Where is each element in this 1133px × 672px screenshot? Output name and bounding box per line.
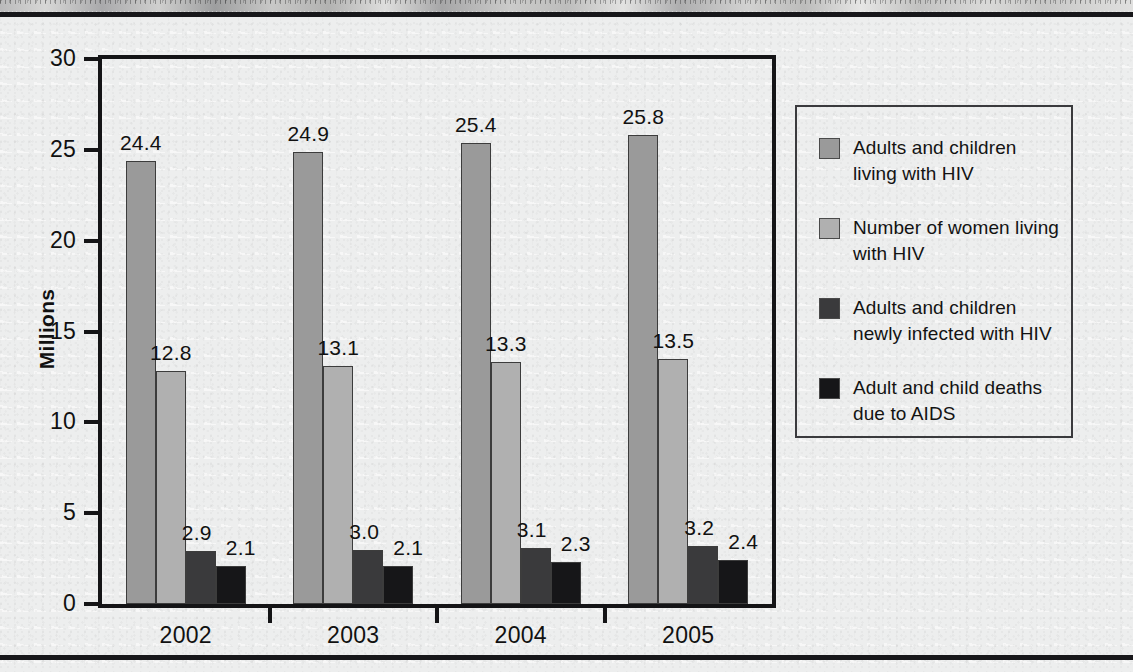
bar-2004-series2 [491, 362, 521, 604]
bar-value-label: 2.1 [215, 536, 267, 560]
legend-item-1: Adults and children living with HIV [819, 135, 1063, 187]
bar-value-label: 2.3 [550, 532, 602, 556]
x-axis-label-2002: 2002 [141, 622, 231, 649]
bar-value-label: 12.8 [145, 341, 197, 365]
legend-label: Number of women living with HIV [853, 215, 1063, 267]
y-tick-mark [84, 511, 98, 515]
y-tick-mark [84, 602, 98, 606]
bar-value-label: 13.1 [312, 336, 364, 360]
bar-2004-series1 [461, 143, 491, 604]
bar-value-label: 2.4 [717, 530, 769, 554]
bar-2002-series3 [186, 551, 216, 604]
y-tick-mark [84, 239, 98, 243]
bar-2002-series2 [156, 371, 186, 604]
legend-label: Adults and children living with HIV [853, 135, 1063, 187]
x-tick-mark [268, 608, 272, 623]
bars-layer: 24.412.82.92.124.913.13.02.125.413.33.12… [102, 59, 772, 604]
y-tick-label: 10 [50, 408, 76, 435]
x-axis-label-2003: 2003 [308, 622, 398, 649]
bar-value-label: 25.8 [617, 105, 669, 129]
bar-2005-series1 [628, 135, 658, 604]
legend-item-2: Number of women living with HIV [819, 215, 1063, 267]
bar-2003-series4 [383, 566, 413, 604]
legend-item-4: Adult and child deaths due to AIDS [819, 375, 1063, 427]
bar-value-label: 24.9 [282, 122, 334, 146]
y-tick-label: 25 [50, 136, 76, 163]
legend-swatch-icon [819, 218, 840, 239]
bar-2003-series1 [293, 152, 323, 604]
legend-swatch-icon [819, 378, 840, 399]
bar-value-label: 25.4 [450, 113, 502, 137]
y-tick-mark [84, 57, 98, 61]
y-tick-label: 0 [63, 590, 76, 617]
bar-value-label: 2.1 [382, 536, 434, 560]
legend-label: Adult and child deaths due to AIDS [853, 375, 1063, 427]
bar-group-2003: 24.913.13.02.1 [270, 59, 438, 604]
y-tick-label: 30 [50, 45, 76, 72]
chart-legend: Adults and children living with HIVNumbe… [795, 105, 1073, 438]
bar-2005-series2 [658, 359, 688, 604]
y-tick-label: 5 [63, 499, 76, 526]
legend-item-3: Adults and children newly infected with … [819, 295, 1063, 347]
x-axis-label-2005: 2005 [643, 622, 733, 649]
bar-group-2002: 24.412.82.92.1 [102, 59, 270, 604]
bar-group-2005: 25.813.53.22.4 [605, 59, 773, 604]
y-tick-label: 15 [50, 318, 76, 345]
x-tick-mark [435, 608, 439, 623]
bar-group-2004: 25.413.33.12.3 [437, 59, 605, 604]
y-tick-mark [84, 330, 98, 334]
x-axis-labels: 2002200320042005 [98, 622, 776, 656]
y-tick-label: 20 [50, 227, 76, 254]
legend-swatch-icon [819, 138, 840, 159]
legend-label: Adults and children newly infected with … [853, 295, 1063, 347]
bar-value-label: 13.5 [647, 329, 699, 353]
bar-value-label: 13.3 [480, 332, 532, 356]
y-axis-ticks: 302520151050 [0, 17, 98, 653]
bar-2003-series3 [353, 550, 383, 605]
bar-value-label: 24.4 [115, 131, 167, 155]
bar-2004-series3 [521, 548, 551, 604]
y-tick-mark [84, 420, 98, 424]
bar-2005-series3 [688, 546, 718, 604]
bar-2003-series2 [323, 366, 353, 604]
y-tick-mark [84, 148, 98, 152]
x-axis-label-2004: 2004 [476, 622, 566, 649]
bar-2002-series1 [126, 161, 156, 604]
bar-2002-series4 [216, 566, 246, 604]
bar-2004-series4 [551, 562, 581, 604]
legend-swatch-icon [819, 298, 840, 319]
x-tick-mark [603, 608, 607, 623]
bar-2005-series4 [718, 560, 748, 604]
bar-chart-figure: Millions 302520151050 24.412.82.92.124.9… [0, 17, 1133, 653]
